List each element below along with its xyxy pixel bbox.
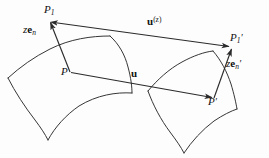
label-vector-zen: zen bbox=[23, 24, 36, 37]
label-pprime-base: P bbox=[208, 95, 215, 107]
label-p1-sub: 1 bbox=[51, 8, 55, 17]
label-zen-sub: n bbox=[32, 28, 36, 37]
label-pprime-mark: ′ bbox=[215, 96, 217, 107]
label-point-p-prime: P′ bbox=[208, 96, 217, 107]
left-surface-patch bbox=[8, 36, 132, 140]
label-p1prime-base: P bbox=[230, 31, 237, 43]
label-p-base: P bbox=[61, 65, 68, 77]
u-vector bbox=[71, 73, 212, 98]
left-patch-top-edge bbox=[8, 36, 110, 78]
left-patch-right-edge bbox=[110, 36, 132, 93]
label-vector-uz: u(z) bbox=[147, 16, 161, 27]
left-patch-bottom-edge bbox=[48, 93, 132, 140]
label-uz-sup: (z) bbox=[153, 15, 161, 24]
label-point-p1-prime: P1′ bbox=[230, 32, 243, 45]
right-patch-top-edge bbox=[148, 51, 213, 91]
label-zenprime-mark: ′ bbox=[239, 58, 241, 69]
left-patch-left-edge bbox=[8, 78, 48, 140]
label-point-p1: P1 bbox=[44, 4, 54, 17]
right-patch-left-edge bbox=[148, 91, 184, 153]
label-vector-zen-prime: zen′ bbox=[226, 58, 241, 71]
uz-vector bbox=[54, 23, 229, 47]
right-surface-patch bbox=[148, 51, 237, 153]
label-u-bold: u bbox=[131, 67, 137, 79]
label-point-p: P bbox=[61, 66, 68, 77]
geometry-figure: P1 zen u(z) P1′ zen′ P u P′ bbox=[0, 0, 269, 158]
label-vector-u: u bbox=[131, 68, 137, 79]
label-p1prime-mark: ′ bbox=[240, 32, 242, 43]
label-p1-base: P bbox=[44, 3, 51, 15]
figure-canvas bbox=[0, 0, 269, 158]
right-patch-bottom-edge bbox=[184, 109, 237, 153]
